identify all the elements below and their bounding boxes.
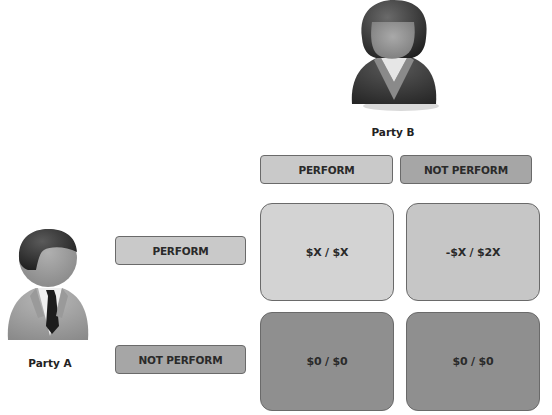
party-b-avatar <box>346 0 442 115</box>
male-user-icon <box>6 226 90 348</box>
payoff-cell-perform-not-perform: -$X / $2X <box>406 203 540 301</box>
female-user-icon <box>346 0 442 115</box>
row-header-perform: PERFORM <box>115 236 246 265</box>
column-header-not-perform: NOT PERFORM <box>400 155 532 184</box>
payoff-cell-perform-perform: $X / $X <box>260 203 394 301</box>
row-header-not-perform: NOT PERFORM <box>115 345 246 374</box>
party-a-label: Party A <box>0 357 100 369</box>
payoff-cell-not-perform-not-perform: $0 / $0 <box>406 312 540 411</box>
party-b-label: Party B <box>343 126 443 138</box>
column-header-perform: PERFORM <box>260 155 393 184</box>
party-a-avatar <box>6 226 90 348</box>
payoff-cell-not-perform-perform: $0 / $0 <box>260 312 394 411</box>
